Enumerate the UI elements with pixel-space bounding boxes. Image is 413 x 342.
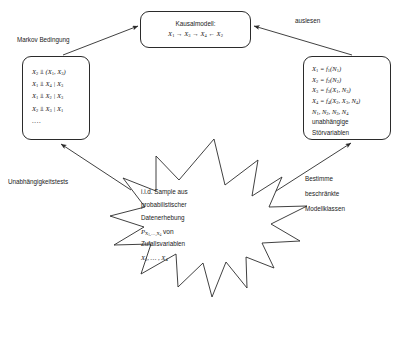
causal-model-content: Kausalmodell: X1 → X3 → X4 ← X2: [141, 12, 250, 44]
independence-statements-content: X2 ⫫ (X1, X3) X1 ⫫ X4 | X3 X1 ⫫ X2 | X3 …: [23, 57, 89, 131]
structural-equation: X1 = f1(N1): [312, 64, 385, 75]
causal-model-formula: X1 → X3 → X4 ← X2: [146, 29, 245, 40]
structural-equation: X3 = f3(X1, N3): [312, 85, 385, 96]
independence-line: X2 ⫫ (X1, X3): [32, 66, 84, 78]
structural-equation: X2 = f2(N2): [312, 75, 385, 86]
edge-label-bestimme-modellklassen: Bestimme beschränkte Modellklassen: [305, 172, 345, 216]
arrow-independence-tests: [61, 144, 131, 190]
star-line: Datenerhebung: [141, 212, 253, 225]
edge-label-auslesen: auslesen: [295, 17, 320, 24]
star-line: Zufallsvariablen: [141, 238, 253, 251]
noise-description-line-2: Störvariablen: [312, 128, 385, 138]
bestimme-line-3: Modellklassen: [305, 202, 345, 217]
star-line: probabilistischer: [141, 199, 253, 212]
causal-model-box[interactable]: Kausalmodell: X1 → X3 → X4 ← X2: [140, 11, 251, 48]
star-line: i.i.d. Sample aus: [141, 186, 253, 199]
structural-equations-box[interactable]: X1 = f1(N1) X2 = f2(N2) X3 = f3(X1, N3) …: [303, 56, 391, 140]
edges-layer: [0, 0, 413, 342]
noise-description-line-1: unabhängige: [312, 117, 385, 127]
causal-model-heading: Kausalmodell:: [146, 19, 245, 29]
edge-label-independence-tests: Unabhängigkeitstests: [8, 178, 68, 185]
independence-line: X1 ⫫ X2 | X3: [32, 90, 84, 102]
star-line-variables: X1, … , X4: [141, 251, 253, 265]
bestimme-line-2: beschränkte: [305, 187, 345, 202]
structural-equation: X4 = f4(X2, X3, N4): [312, 96, 385, 107]
diagram-canvas: Kausalmodell: X1 → X3 → X4 ← X2 X2 ⫫ (X1…: [0, 0, 413, 342]
starburst-text: i.i.d. Sample aus probabilistischer Date…: [141, 186, 253, 265]
structural-equations-content: X1 = f1(N1) X2 = f2(N2) X3 = f3(X1, N3) …: [304, 57, 390, 142]
star-line-distribution: PX1,…,X4 von: [141, 225, 253, 239]
noise-variables: N1, N2, N3, N4: [312, 107, 385, 118]
independence-line: X2 ⫫ X3 | X1: [32, 103, 84, 115]
bestimme-line-1: Bestimme: [305, 172, 345, 187]
arrow-auslesen: [254, 26, 352, 55]
independence-statements-box[interactable]: X2 ⫫ (X1, X3) X1 ⫫ X4 | X3 X1 ⫫ X2 | X3 …: [22, 56, 90, 140]
edge-label-markov-condition: Markov Bedingung: [17, 36, 70, 43]
arrow-markov: [63, 26, 138, 55]
independence-line: X1 ⫫ X4 | X3: [32, 78, 84, 90]
independence-ellipsis: ....: [32, 115, 84, 127]
